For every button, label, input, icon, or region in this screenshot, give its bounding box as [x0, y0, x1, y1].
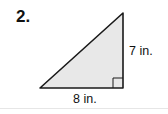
- height-label: 7 in.: [129, 44, 153, 58]
- triangle-shape: [40, 13, 123, 88]
- divider-line: [0, 108, 168, 109]
- base-label: 8 in.: [73, 92, 97, 106]
